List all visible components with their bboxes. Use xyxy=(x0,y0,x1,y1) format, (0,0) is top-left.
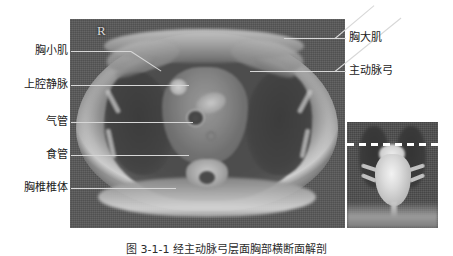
leader-line-vertebral-body xyxy=(71,188,176,189)
superior-vena-cava xyxy=(170,79,187,95)
label-trachea: 气管 xyxy=(0,116,68,127)
label-pectoralis-major: 胸大肌 xyxy=(349,32,382,43)
leader-line-esophagus xyxy=(71,155,189,156)
spinal-canal xyxy=(199,171,215,184)
leader-line-pectoralis-major-h xyxy=(284,38,346,39)
localizer-dashed-line xyxy=(347,143,438,146)
figure-caption: 图 3-1-1 经主动脉弓层面胸部横断面解剖 xyxy=(0,240,453,256)
label-thoracic-vertebral-body: 胸椎椎体 xyxy=(0,182,68,193)
label-pectoralis-minor: 胸小肌 xyxy=(0,45,68,56)
coronal-heart-scan[interactable] xyxy=(347,122,438,228)
leader-line-trachea xyxy=(71,122,193,123)
label-superior-vena-cava: 上腔静脉 xyxy=(0,79,68,90)
orientation-marker-r: R xyxy=(97,23,106,39)
esophagus xyxy=(206,131,216,141)
label-aortic-arch: 主动脉弓 xyxy=(349,65,393,76)
leader-line-pectoralis-minor-h xyxy=(71,51,131,52)
inset-diaphragm xyxy=(347,202,438,228)
leader-line-aortic-arch-h xyxy=(250,71,346,72)
label-esophagus: 食管 xyxy=(0,149,68,160)
leader-line-svc xyxy=(71,85,189,86)
